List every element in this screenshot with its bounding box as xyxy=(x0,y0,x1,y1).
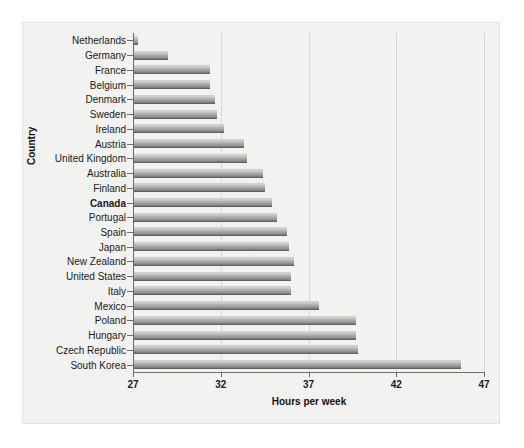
y-axis-tick xyxy=(127,276,133,277)
y-axis-tick xyxy=(127,70,133,71)
y-axis-tick xyxy=(127,188,133,189)
y-axis-tick xyxy=(127,217,133,218)
y-axis-tick xyxy=(127,350,133,351)
y-axis-category-label: New Zealand xyxy=(67,256,126,267)
y-axis-tick xyxy=(127,247,133,248)
x-gridline xyxy=(396,33,397,372)
y-axis-category-label: Japan xyxy=(99,241,126,252)
y-axis-category-label: Austria xyxy=(95,138,126,149)
plot-area xyxy=(133,33,484,372)
bar xyxy=(133,227,287,236)
y-axis-category-label: Italy xyxy=(108,285,126,296)
x-axis-tick xyxy=(484,372,485,377)
y-axis-category-label: Hungary xyxy=(88,330,126,341)
y-axis-category-label: Belgium xyxy=(90,79,126,90)
bar xyxy=(133,65,210,74)
y-axis-tick xyxy=(127,291,133,292)
bar xyxy=(133,213,277,222)
bar xyxy=(133,301,319,310)
bar xyxy=(133,316,356,325)
chart-figure: Country Hours per week 2732374247Netherl… xyxy=(0,0,524,448)
x-axis-tick-label: 27 xyxy=(127,379,138,390)
bar xyxy=(133,345,358,354)
bar xyxy=(133,110,217,119)
y-axis-tick xyxy=(127,129,133,130)
y-axis-tick xyxy=(127,261,133,262)
y-axis-category-label: Mexico xyxy=(94,300,126,311)
bar xyxy=(133,154,247,163)
y-axis-category-label: Canada xyxy=(90,197,126,208)
x-axis-tick-label: 42 xyxy=(391,379,402,390)
y-axis-category-label: Sweden xyxy=(90,109,126,120)
bar xyxy=(133,95,215,104)
x-axis-tick-label: 37 xyxy=(303,379,314,390)
y-axis-tick xyxy=(127,99,133,100)
y-axis-category-label: United Kingdom xyxy=(55,153,126,164)
bar xyxy=(133,51,168,60)
bar xyxy=(133,331,356,340)
bar xyxy=(133,198,272,207)
bar xyxy=(133,139,244,148)
y-axis-category-label: Netherlands xyxy=(72,35,126,46)
y-axis-tick xyxy=(127,144,133,145)
y-axis-tick xyxy=(127,335,133,336)
y-axis-tick xyxy=(127,320,133,321)
y-axis-tick xyxy=(127,40,133,41)
y-axis-category-label: France xyxy=(95,64,126,75)
y-axis-tick xyxy=(127,55,133,56)
y-axis-tick xyxy=(127,232,133,233)
y-axis-category-label: Ireland xyxy=(95,123,126,134)
bar xyxy=(133,272,291,281)
y-axis-category-label: United States xyxy=(66,271,126,282)
y-axis-category-label: Poland xyxy=(95,315,126,326)
x-axis-tick xyxy=(133,372,134,377)
bar xyxy=(133,286,291,295)
y-axis-line xyxy=(133,33,134,373)
y-axis-category-label: Australia xyxy=(87,168,126,179)
y-axis-tick xyxy=(127,158,133,159)
x-axis-tick-label: 47 xyxy=(478,379,489,390)
y-axis-category-label: Finland xyxy=(93,182,126,193)
bar xyxy=(133,183,265,192)
bar xyxy=(133,242,289,251)
y-axis-category-label: Czech Republic xyxy=(56,344,126,355)
y-axis-category-label: Portugal xyxy=(89,212,126,223)
x-gridline xyxy=(484,33,485,372)
x-axis-tick-label: 32 xyxy=(215,379,226,390)
x-axis-tick xyxy=(396,372,397,377)
y-axis-category-label: South Korea xyxy=(70,359,126,370)
bar xyxy=(133,124,224,133)
y-axis-tick xyxy=(127,203,133,204)
bar xyxy=(133,80,210,89)
bar xyxy=(133,360,461,369)
y-axis-tick xyxy=(127,365,133,366)
y-axis-category-label: Spain xyxy=(100,226,126,237)
x-axis-tick xyxy=(309,372,310,377)
x-axis-tick xyxy=(221,372,222,377)
y-axis-category-label: Denmark xyxy=(85,94,126,105)
y-axis-tick xyxy=(127,114,133,115)
x-axis-title: Hours per week xyxy=(133,396,485,407)
y-axis-category-label: Germany xyxy=(85,50,126,61)
y-axis-tick xyxy=(127,173,133,174)
y-axis-tick xyxy=(127,85,133,86)
y-axis-tick xyxy=(127,306,133,307)
bar xyxy=(133,169,263,178)
bar xyxy=(133,257,294,266)
